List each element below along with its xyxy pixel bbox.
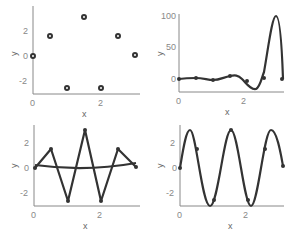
panel-top-right: 100 50 0 0 2 x y [155, 11, 284, 117]
xtick: 0 [176, 96, 181, 106]
ytick: -2 [166, 188, 174, 198]
xtick: 2 [98, 98, 103, 108]
xtick: 0 [30, 98, 35, 108]
xtick: 2 [97, 210, 102, 220]
ytick: 0 [24, 163, 29, 173]
axes-frame [33, 6, 140, 94]
x-axis-label: x [225, 107, 230, 117]
xtick: 2 [243, 210, 248, 220]
ytick: 0 [23, 51, 28, 61]
panel-bottom-left: 2 0 -2 0 2 x y [9, 125, 140, 231]
ytick: 0 [171, 74, 176, 84]
ytick: 2 [23, 26, 28, 36]
x-axis-label: x [83, 221, 88, 231]
y-axis-label: y [155, 51, 165, 56]
ytick: -2 [19, 76, 27, 86]
x-axis-label: x [82, 109, 87, 119]
panel-top-left: 2 0 -2 0 2 x y [9, 6, 140, 119]
ytick: -2 [20, 188, 28, 198]
ytick: 100 [161, 11, 176, 21]
panel-bottom-right: 2 0 -2 0 2 x y [155, 125, 285, 231]
sine-curve [180, 130, 283, 206]
axes-frame [180, 125, 284, 206]
xtick: 2 [241, 96, 246, 106]
xtick: 0 [31, 210, 36, 220]
y-axis-label: y [9, 163, 19, 168]
quadratic-fit-curve [35, 163, 136, 168]
ytick: 2 [24, 138, 29, 148]
y-axis-label: y [155, 163, 165, 168]
xtick: 0 [177, 210, 182, 220]
x-axis-label: x [228, 221, 233, 231]
ytick: 2 [170, 138, 175, 148]
scatter-points [31, 15, 137, 90]
y-axis-label: y [9, 51, 19, 56]
figure-canvas: 2 0 -2 0 2 x y 100 50 0 0 2 x y [0, 0, 295, 238]
ytick: 50 [166, 42, 176, 52]
ytick: 0 [172, 163, 177, 173]
